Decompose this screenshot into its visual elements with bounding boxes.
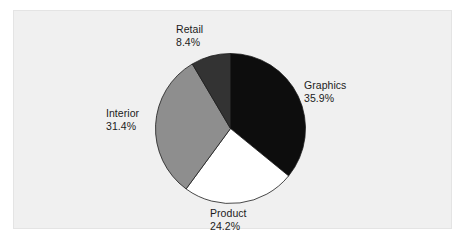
pie-label-graphics-name: Graphics: [304, 79, 346, 92]
pie-label-retail-name: Retail: [176, 23, 203, 36]
pie-label-product-name: Product: [210, 207, 247, 220]
pie-label-interior: Interior 31.4%: [106, 107, 139, 133]
pie-chart: [155, 53, 306, 204]
pie-chart-figure: Retail 8.4% Graphics 35.9% Interior 31.4…: [0, 0, 464, 245]
pie-label-product: Product 24.2%: [210, 207, 247, 233]
pie-label-retail-value: 8.4%: [176, 36, 203, 49]
pie-slices-group: [155, 54, 305, 204]
pie-label-graphics: Graphics 35.9%: [304, 79, 346, 105]
pie-svg: [155, 53, 306, 204]
pie-label-interior-value: 31.4%: [106, 120, 139, 133]
pie-label-interior-name: Interior: [106, 107, 139, 120]
pie-label-graphics-value: 35.9%: [304, 92, 346, 105]
pie-label-retail: Retail 8.4%: [176, 23, 203, 49]
pie-label-product-value: 24.2%: [210, 220, 247, 233]
plot-panel: Retail 8.4% Graphics 35.9% Interior 31.4…: [13, 10, 452, 229]
